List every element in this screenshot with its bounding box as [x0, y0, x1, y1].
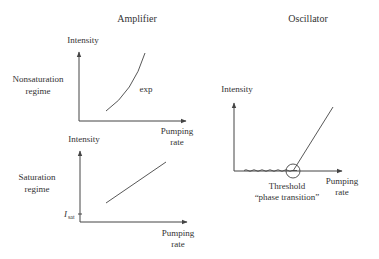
saturation-line: [106, 162, 166, 203]
threshold-label-2: “phase transition”: [255, 192, 320, 202]
oscillator-title: Oscillator: [288, 13, 328, 24]
amplifier-title: Amplifier: [117, 13, 157, 24]
exp-curve: [106, 53, 145, 111]
sat-y-axis-label: Intensity: [68, 134, 100, 144]
threshold-label-1: Threshold: [269, 181, 306, 191]
nonsat-regime-label-1: Nonsaturation: [13, 74, 64, 84]
sat-x-axis-label-1: Pumping: [162, 228, 195, 238]
nonsat-y-axis-label: Intensity: [67, 35, 99, 45]
nonsaturation-plot: Intensity Nonsaturation regime exp Pumpi…: [13, 35, 194, 147]
osc-x-axis-label-1: Pumping: [326, 176, 359, 186]
osc-x-axis-label-2: rate: [335, 187, 349, 197]
oscillator-plot: Intensity Threshold “phase transition” P…: [221, 84, 358, 202]
lasing-line: [293, 107, 333, 171]
osc-y-axis-label: Intensity: [221, 84, 253, 94]
isat-subscript: sat: [68, 214, 75, 220]
nonsat-x-axis-label-1: Pumping: [161, 126, 194, 136]
sat-regime-label-1: Saturation: [19, 172, 56, 182]
saturation-plot: Intensity I sat Saturation regime Pumpin…: [19, 134, 195, 249]
nonsat-regime-label-2: regime: [26, 86, 51, 96]
laser-regimes-diagram: Amplifier Oscillator Intensity Nonsatura…: [0, 0, 379, 259]
nonsat-x-axis-label-2: rate: [170, 137, 184, 147]
sat-x-axis-label-2: rate: [171, 239, 185, 249]
sat-regime-label-2: regime: [25, 184, 50, 194]
exp-label: exp: [140, 84, 153, 94]
